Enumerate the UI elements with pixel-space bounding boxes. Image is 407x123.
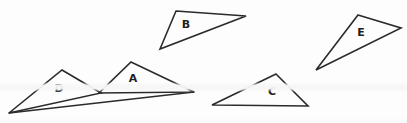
shape-group-triangle-c[interactable]: C bbox=[212, 74, 308, 106]
d-base-extension-line bbox=[9, 92, 194, 113]
triangle-c-label: C bbox=[268, 85, 276, 98]
shape-group-triangle-e[interactable]: E bbox=[316, 15, 401, 70]
triangle-c-outline[interactable] bbox=[212, 74, 308, 106]
triangle-a-outline[interactable] bbox=[99, 62, 194, 93]
shape-group-triangle-d[interactable]: D bbox=[9, 70, 101, 113]
triangle-b-label: B bbox=[182, 18, 190, 31]
triangles-svg: D A B C E bbox=[0, 0, 407, 123]
shape-group-triangle-b[interactable]: B bbox=[160, 11, 246, 49]
triangle-a-label: A bbox=[129, 72, 138, 85]
shape-group-triangle-a[interactable]: A bbox=[99, 62, 194, 93]
triangle-d-label: D bbox=[54, 82, 63, 95]
figure-canvas: D A B C E bbox=[0, 0, 407, 123]
triangle-b-outline[interactable] bbox=[160, 11, 246, 49]
triangle-e-label: E bbox=[357, 26, 365, 39]
triangle-e-outline[interactable] bbox=[316, 15, 401, 70]
